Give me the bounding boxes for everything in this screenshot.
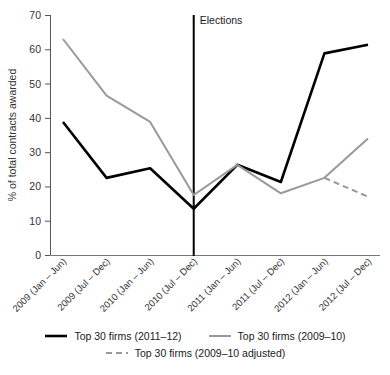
y-tick-label: 0 bbox=[35, 249, 41, 261]
y-axis: 010203040506070 % of total contracts awa… bbox=[6, 9, 51, 261]
chart-figure: 010203040506070 % of total contracts awa… bbox=[0, 0, 390, 375]
series-line-0 bbox=[63, 45, 368, 209]
elections-label: Elections bbox=[200, 14, 243, 26]
y-tick-label: 70 bbox=[29, 9, 41, 21]
legend-item-top30-2009-10: Top 30 firms (2009–10) bbox=[208, 330, 346, 342]
series-layer bbox=[63, 39, 368, 209]
legend-item-top30-2009-10-adjusted: Top 30 firms (2009–10 adjusted) bbox=[0, 347, 390, 359]
legend-label-top30-2009-10-adjusted: Top 30 firms (2009–10 adjusted) bbox=[135, 347, 286, 359]
y-tick-label: 60 bbox=[29, 43, 41, 55]
y-axis-title: % of total contracts awarded bbox=[6, 69, 18, 202]
y-tick-label: 20 bbox=[29, 180, 41, 192]
y-tick-label: 40 bbox=[29, 112, 41, 124]
legend-label-top30-2011-12: Top 30 firms (2011–12) bbox=[74, 330, 181, 342]
line-chart: 010203040506070 % of total contracts awa… bbox=[0, 0, 390, 375]
legend-item-top30-2011-12: Top 30 firms (2011–12) bbox=[44, 330, 181, 342]
legend-swatch-dashed-gray bbox=[105, 348, 129, 358]
y-tick-label: 50 bbox=[29, 78, 41, 90]
series-line-2 bbox=[324, 178, 368, 197]
elections-annotation: Elections bbox=[194, 14, 243, 256]
y-tick-label: 30 bbox=[29, 146, 41, 158]
legend-swatch-solid-gray bbox=[208, 331, 232, 341]
y-tick-label: 10 bbox=[29, 215, 41, 227]
x-axis: 2009 (Jan – Jun)2009 (Jul – Dec)2010 (Ja… bbox=[10, 256, 380, 314]
legend-swatch-solid-black bbox=[44, 331, 68, 341]
legend-label-top30-2009-10: Top 30 firms (2009–10) bbox=[238, 330, 346, 342]
chart-legend: Top 30 firms (2011–12) Top 30 firms (200… bbox=[0, 330, 390, 359]
